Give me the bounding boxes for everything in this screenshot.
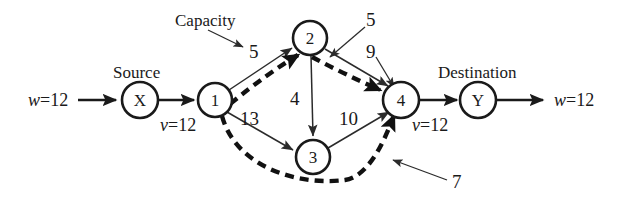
node-y-label: Y <box>472 91 484 110</box>
flow-path-1-to-2 <box>230 55 298 104</box>
dest-flow-value: v=12 <box>412 115 448 135</box>
capacity-label-2-3: 4 <box>290 88 300 109</box>
outflow-value: w=12 <box>554 90 594 110</box>
pointer-5-to-flow-2-4 <box>330 27 365 57</box>
outflow-amount: =12 <box>566 90 594 110</box>
destination-annotation-label: Destination <box>438 63 517 82</box>
node-1[interactable]: 1 <box>198 83 232 117</box>
node-2-label: 2 <box>306 29 315 48</box>
node-3-label: 3 <box>309 148 318 167</box>
capacity-label-lower-flow: 7 <box>452 171 462 192</box>
source-flow-amount: =12 <box>168 115 196 135</box>
source-flow-variable: v <box>160 115 168 135</box>
pointer-9-to-edge-2-4 <box>376 57 394 87</box>
node-4-label: 4 <box>397 91 406 110</box>
inflow-amount: =12 <box>40 90 68 110</box>
diagram-svg: X 1 2 3 4 Y Capacity Source Destination … <box>0 0 627 212</box>
capacity-annotation-label: Capacity <box>175 11 236 30</box>
network-flow-diagram: X 1 2 3 4 Y Capacity Source Destination … <box>0 0 627 212</box>
capacity-label-2-4: 9 <box>366 41 376 62</box>
capacity-label-1-3: 13 <box>240 108 259 129</box>
pointer-capacity-to-5 <box>208 30 243 47</box>
edge-2-to-3 <box>311 56 313 136</box>
node-3[interactable]: 3 <box>296 140 330 174</box>
edge-1-to-2 <box>229 48 292 90</box>
capacity-label-2-4-pointer: 5 <box>366 9 376 30</box>
dest-flow-variable: v <box>412 115 420 135</box>
pointer-7-to-flow-lower <box>393 160 447 180</box>
node-x-label: X <box>134 91 146 110</box>
source-annotation-label: Source <box>113 63 160 82</box>
source-flow-value: v=12 <box>160 115 196 135</box>
dest-flow-amount: =12 <box>420 115 448 135</box>
node-2[interactable]: 2 <box>293 21 327 55</box>
node-x[interactable]: X <box>122 82 158 118</box>
inflow-variable: w <box>28 90 40 110</box>
capacity-label-3-4: 10 <box>339 108 358 129</box>
edge-3-to-4 <box>328 112 389 148</box>
inflow-value: w=12 <box>28 90 68 110</box>
node-4[interactable]: 4 <box>383 82 419 118</box>
node-y[interactable]: Y <box>460 82 496 118</box>
capacity-label-1-2: 5 <box>249 41 259 62</box>
node-1-label: 1 <box>211 91 220 110</box>
outflow-variable: w <box>554 90 566 110</box>
